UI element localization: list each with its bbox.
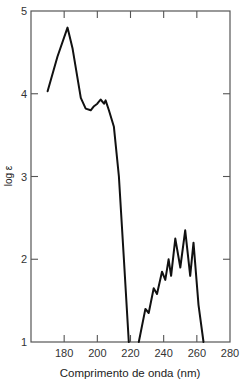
- axes-box: [31, 11, 230, 342]
- x-tick-label: 180: [55, 347, 73, 359]
- x-tick-label: 260: [188, 347, 206, 359]
- x-tick-label: 280: [221, 347, 239, 359]
- data-series: [48, 28, 204, 342]
- axis-ticks: 18020022024026028012345: [21, 5, 239, 359]
- y-tick-label: 3: [21, 171, 27, 183]
- y-axis-title: log ε: [3, 165, 14, 186]
- y-tick-label: 1: [21, 336, 27, 348]
- x-tick-label: 200: [88, 347, 106, 359]
- y-tick-label: 5: [21, 5, 27, 17]
- uv-spectrum-chart: 18020022024026028012345 Comprimento de o…: [0, 0, 242, 383]
- spectrum-line: [139, 230, 204, 342]
- y-tick-label: 4: [21, 88, 27, 100]
- x-tick-label: 220: [121, 347, 139, 359]
- x-tick-label: 240: [154, 347, 172, 359]
- y-tick-label: 2: [21, 253, 27, 265]
- x-axis-title: Comprimento de onda (nm): [60, 367, 201, 379]
- spectrum-line: [48, 28, 129, 342]
- plot-frame: [31, 11, 230, 342]
